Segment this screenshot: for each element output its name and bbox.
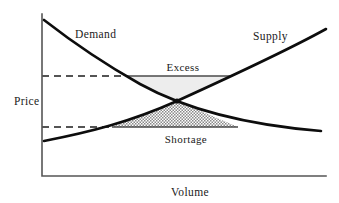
supply-demand-diagram: Demand Supply Excess Shortage Price Volu…	[0, 0, 339, 203]
excess-region	[128, 76, 232, 101]
chart-canvas: Demand Supply Excess Shortage Price Volu…	[0, 0, 339, 203]
excess-region-label: Excess	[167, 61, 200, 73]
demand-curve-label: Demand	[75, 28, 116, 40]
equilibrium-point-marker	[174, 98, 179, 103]
excess-region-fill	[128, 76, 232, 101]
y-axis-label: Price	[14, 95, 40, 107]
shortage-region-label: Shortage	[165, 133, 207, 145]
supply-curve-label: Supply	[253, 30, 288, 43]
x-axis-label: Volume	[171, 186, 209, 198]
